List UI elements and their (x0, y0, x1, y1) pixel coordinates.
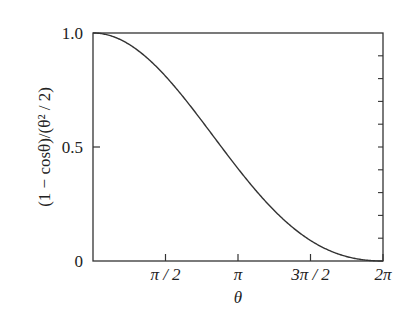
y-axis-label: (1 − cosθ)/(θ² / 2) (35, 87, 54, 207)
y-tick-label: 0 (75, 252, 84, 271)
x-tick-label: 2π (374, 265, 392, 284)
y-tick-labels: 00.51.0 (62, 24, 83, 271)
x-tick-label: π (234, 265, 243, 284)
y-tick-label: 0.5 (62, 138, 83, 157)
right-axis-minor-ticks (378, 56, 383, 238)
y-tick-label: 1.0 (62, 24, 83, 43)
x-tick-labels: π / 2π3π / 22π (150, 265, 392, 284)
data-line (93, 33, 383, 261)
x-axis-label: θ (234, 288, 242, 307)
x-tick-label: π / 2 (150, 265, 181, 284)
x-tick-label: 3π / 2 (290, 265, 330, 284)
chart: π / 2π3π / 22π 00.51.0 θ (1 − cosθ)/(θ² … (0, 0, 417, 322)
plot-frame (93, 33, 383, 261)
